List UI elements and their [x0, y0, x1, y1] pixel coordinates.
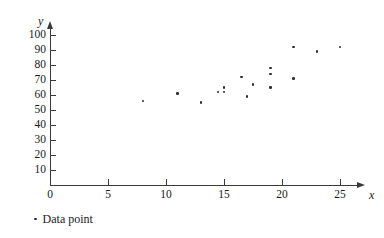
y-axis-tick: [50, 50, 56, 51]
legend-label: Data point: [43, 213, 93, 225]
data-point: [339, 46, 342, 49]
y-axis-tick: [50, 35, 56, 36]
y-axis-tick-label: 60: [2, 89, 46, 101]
data-point: [292, 77, 295, 80]
y-axis-tick: [50, 170, 56, 171]
y-axis-tick: [50, 95, 56, 96]
data-point: [269, 86, 272, 89]
x-axis-tick-label: 10: [151, 188, 181, 200]
scatter-plot-figure: y x 102030405060708090100 0510152025 Dat…: [0, 0, 384, 238]
x-axis-tick: [166, 179, 167, 185]
y-axis-tick-label: 100: [2, 29, 46, 41]
data-point: [269, 67, 272, 70]
data-point: [223, 91, 226, 94]
x-axis-tick-label: 5: [93, 188, 123, 200]
legend: Data point: [34, 213, 93, 225]
y-axis-tick-label: 40: [2, 119, 46, 131]
y-axis-tick: [50, 80, 56, 81]
x-axis-arrow-icon: [357, 182, 365, 188]
data-point: [176, 92, 179, 95]
y-axis-tick-label: 80: [2, 59, 46, 71]
data-point: [252, 83, 255, 86]
data-point: [223, 86, 226, 89]
y-axis-tick-label: 10: [2, 164, 46, 176]
y-axis-line: [50, 28, 51, 185]
y-axis-tick: [50, 155, 56, 156]
x-axis-tick-label: 0: [35, 188, 65, 200]
x-axis-tick-label: 20: [267, 188, 297, 200]
data-point: [200, 101, 203, 104]
y-axis-tick-label: 70: [2, 74, 46, 86]
y-axis-arrow-icon: [47, 21, 53, 29]
y-axis-tick-label: 50: [2, 104, 46, 116]
x-axis-tick-label: 15: [209, 188, 239, 200]
data-point: [316, 50, 319, 53]
x-axis-tick: [108, 179, 109, 185]
x-axis-tick: [282, 179, 283, 185]
data-point: [217, 91, 220, 94]
plot-area: y x 102030405060708090100 0510152025: [0, 0, 384, 238]
data-point: [269, 73, 272, 76]
y-axis-tick: [50, 140, 56, 141]
x-axis-line: [50, 185, 358, 186]
x-axis-tick: [340, 179, 341, 185]
y-axis-tick-label: 30: [2, 134, 46, 146]
y-axis-label: y: [38, 14, 43, 29]
x-axis-tick-label: 25: [325, 188, 355, 200]
x-axis-tick: [224, 179, 225, 185]
y-axis-tick-label: 20: [2, 149, 46, 161]
data-point: [246, 95, 249, 98]
data-point: [142, 100, 145, 103]
y-axis-tick: [50, 125, 56, 126]
legend-marker-icon: [34, 218, 37, 221]
x-axis-label: x: [369, 188, 374, 203]
y-axis-tick: [50, 110, 56, 111]
y-axis-tick: [50, 65, 56, 66]
y-axis-tick-label: 90: [2, 44, 46, 56]
data-point: [240, 76, 243, 79]
data-point: [292, 46, 295, 49]
